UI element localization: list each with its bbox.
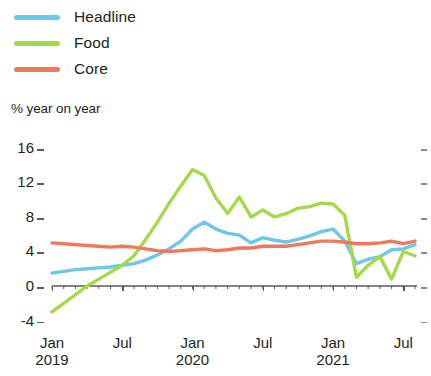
x-tick-month: Jul bbox=[373, 334, 431, 351]
y-tick-mark bbox=[37, 252, 44, 254]
x-major-tick bbox=[122, 286, 123, 291]
y-tick-label-neg4: -4 bbox=[0, 313, 34, 328]
x-tick-label: Jul bbox=[373, 334, 431, 351]
right-tick-mark bbox=[421, 322, 427, 324]
series-lines bbox=[52, 170, 415, 312]
right-tick-mark bbox=[421, 252, 427, 254]
x-tick-month: Jul bbox=[233, 334, 293, 351]
y-tick-label-4: 4 bbox=[0, 243, 34, 258]
right-tick-mark bbox=[421, 287, 427, 289]
x-tick-month: Jan bbox=[22, 334, 82, 351]
y-tick-mark bbox=[37, 183, 44, 185]
y-tick-label-16: 16 bbox=[0, 140, 34, 155]
y-tick-label-0: 0 bbox=[0, 278, 34, 293]
y-tick-mark bbox=[37, 287, 44, 289]
x-tick-year: 2021 bbox=[303, 351, 363, 368]
right-tick-mark bbox=[421, 183, 427, 185]
x-tick-label: Jul bbox=[233, 334, 293, 351]
x-major-tick bbox=[52, 286, 53, 291]
right-tick-mark bbox=[421, 149, 427, 151]
y-tick-mark bbox=[37, 322, 44, 324]
x-tick-month: Jan bbox=[303, 334, 363, 351]
x-tick-label: Jan2021 bbox=[303, 334, 363, 368]
x-tick-month: Jul bbox=[92, 334, 152, 351]
y-tick-mark bbox=[37, 218, 44, 220]
x-tick-label: Jan2019 bbox=[22, 334, 82, 368]
x-tick-year: 2019 bbox=[22, 351, 82, 368]
series-line-food bbox=[52, 170, 415, 312]
plot-svg bbox=[0, 0, 431, 376]
plot-area: 1612840-4 Jan2019JulJan2020JulJan2021Jul bbox=[0, 0, 431, 376]
y-tick-label-12: 12 bbox=[0, 174, 34, 189]
x-tick-label: Jul bbox=[92, 334, 152, 351]
x-tick-month: Jan bbox=[163, 334, 223, 351]
y-tick-label-8: 8 bbox=[0, 209, 34, 224]
inflation-line-chart: Headline Food Core % year on year 161284… bbox=[0, 0, 431, 376]
zero-axis-line bbox=[52, 286, 417, 289]
x-major-tick bbox=[333, 286, 334, 291]
x-tick-year: 2020 bbox=[163, 351, 223, 368]
x-major-tick bbox=[403, 286, 404, 291]
right-tick-mark bbox=[421, 218, 427, 220]
x-major-tick bbox=[263, 286, 264, 291]
x-major-tick bbox=[193, 286, 194, 291]
series-line-core bbox=[52, 241, 415, 251]
x-tick-label: Jan2020 bbox=[163, 334, 223, 368]
y-tick-mark bbox=[37, 149, 44, 151]
